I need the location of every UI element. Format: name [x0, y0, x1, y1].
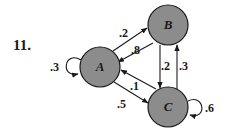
- edge-label-a-b: .2: [119, 26, 128, 40]
- markov-chain-diagram: .3 .2 .8 .2 .3 .1 .5 .6 A B: [0, 0, 227, 136]
- edge-label-b-c: .2: [161, 59, 170, 73]
- edge-a-b: .2: [113, 26, 147, 51]
- edge-b-c: .2: [160, 45, 170, 88]
- node-b: B: [148, 5, 188, 45]
- node-a: A: [80, 47, 120, 87]
- edge-label-c-c: .6: [205, 101, 214, 115]
- edge-a-a: .3: [50, 58, 81, 75]
- edge-c-b: .3: [177, 45, 188, 89]
- edge-b-a: .8: [118, 43, 153, 62]
- edge-label-c-b: .3: [179, 59, 188, 73]
- edge-label-a-a: .3: [50, 60, 59, 74]
- edge-c-c: .6: [188, 100, 214, 116]
- node-label-b: B: [163, 17, 173, 32]
- edge-label-b-a: .8: [131, 43, 140, 57]
- edge-label-a-c: .5: [117, 97, 126, 111]
- node-c: C: [148, 87, 188, 127]
- node-label-a: A: [95, 59, 105, 74]
- node-label-c: C: [164, 99, 173, 114]
- edge-label-c-a: .1: [130, 79, 139, 93]
